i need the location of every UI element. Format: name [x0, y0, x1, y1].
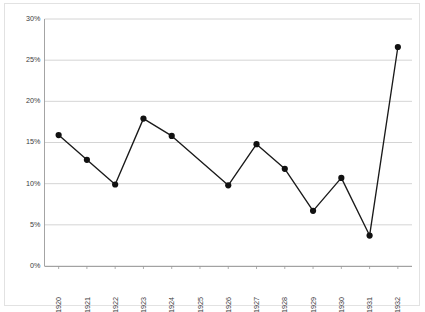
data-point-1926 [225, 182, 231, 188]
x-tick-label-1926: 1926 [224, 297, 233, 312]
x-tick-label-1923: 1923 [139, 297, 148, 312]
y-tick-label-30: 30% [26, 14, 41, 23]
data-point-1931 [367, 232, 373, 238]
x-tick-label-1928: 1928 [280, 297, 289, 312]
data-point-1920 [56, 132, 62, 138]
x-tick-label-1920: 1920 [54, 297, 63, 312]
data-point-1929 [310, 208, 316, 214]
gridlines [45, 19, 413, 266]
data-point-1930 [338, 175, 344, 181]
x-tick-label-1925: 1925 [196, 297, 205, 312]
data-point-1924 [169, 133, 175, 139]
data-point-1928 [282, 166, 288, 172]
x-tick-label-1921: 1921 [83, 297, 92, 312]
y-tick-label-15: 15% [26, 137, 41, 146]
y-tick-label-25: 25% [26, 55, 41, 64]
x-tick-labels: 1920192119221923192419251926192719281929… [54, 297, 402, 312]
y-tick-label-20: 20% [26, 96, 41, 105]
y-tick-labels: 0%5%10%15%20%25%30% [26, 14, 41, 270]
x-tick-label-1927: 1927 [252, 297, 261, 312]
y-tick-label-10: 10% [26, 179, 41, 188]
x-tick-label-1922: 1922 [111, 297, 120, 312]
y-tick-label-5: 5% [30, 220, 41, 229]
data-point-1921 [84, 157, 90, 163]
data-point-1932 [395, 44, 401, 50]
line-chart: 0%5%10%15%20%25%30% 19201921192219231924… [0, 0, 425, 312]
x-tick-label-1932: 1932 [393, 297, 402, 312]
data-series [56, 44, 401, 239]
data-point-1923 [140, 116, 146, 122]
y-tick-label-0: 0% [30, 261, 41, 270]
x-tick-label-1930: 1930 [337, 297, 346, 312]
x-tick-label-1924: 1924 [167, 297, 176, 312]
data-point-1927 [253, 141, 259, 147]
x-tick-label-1931: 1931 [365, 297, 374, 312]
x-tick-label-1929: 1929 [309, 297, 318, 312]
data-point-1922 [112, 181, 118, 187]
series-markers [56, 44, 401, 239]
series-line [59, 47, 398, 236]
